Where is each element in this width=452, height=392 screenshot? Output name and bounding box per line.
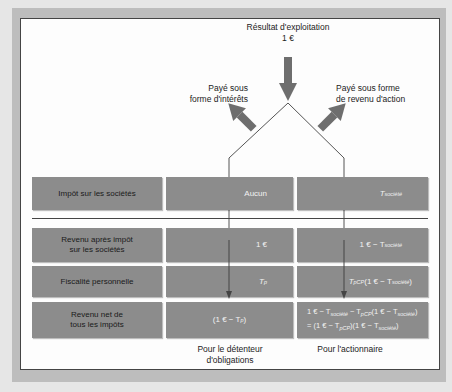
row-flow-arrows xyxy=(0,0,452,392)
equity-down-arrow-icon xyxy=(341,240,347,299)
bondholder-label: Pour le détenteur d'obligations xyxy=(180,344,280,366)
shareholder-label: Pour l'actionnaire xyxy=(310,344,390,355)
bond-down-arrow-icon xyxy=(226,240,232,299)
